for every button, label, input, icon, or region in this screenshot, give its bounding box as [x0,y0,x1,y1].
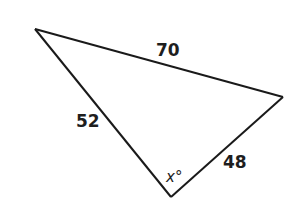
side-left [35,29,171,197]
side-right [171,97,283,197]
side-top-label: 70 [156,40,180,60]
side-left-label: 52 [76,111,100,131]
angle-x-label: x° [165,168,182,186]
side-right-label: 48 [223,152,247,172]
triangle-diagram: 70 52 48 x° [0,0,306,216]
